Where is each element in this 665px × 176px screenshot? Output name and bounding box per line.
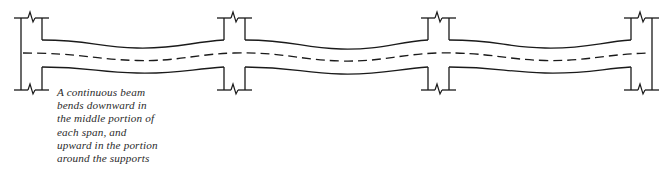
break-symbol-icon xyxy=(14,12,49,22)
caption-line-1: A continuous beam xyxy=(57,86,237,99)
beam-bottom-edge xyxy=(42,67,631,74)
figure-caption: A continuous beam bends downward in the … xyxy=(57,86,237,165)
caption-line-6: around the supports xyxy=(57,152,237,165)
caption-line-2: bends downward in xyxy=(57,99,237,112)
caption-line-4: each span, and xyxy=(57,126,237,139)
caption-line-3: the middle portion of xyxy=(57,112,237,125)
break-symbol-icon xyxy=(624,84,659,94)
break-symbol-icon xyxy=(421,12,456,22)
beam-centerline-elastic-curve xyxy=(23,53,650,61)
break-symbol-icon xyxy=(217,12,252,22)
break-symbol-icon xyxy=(624,12,659,22)
continuous-beam-figure: A continuous beam bends downward in the … xyxy=(0,0,665,176)
break-symbol-icon xyxy=(421,84,456,94)
caption-line-5: upward in the portion xyxy=(57,139,237,152)
break-symbol-icon xyxy=(14,84,49,94)
beam-top-edge xyxy=(42,40,631,49)
